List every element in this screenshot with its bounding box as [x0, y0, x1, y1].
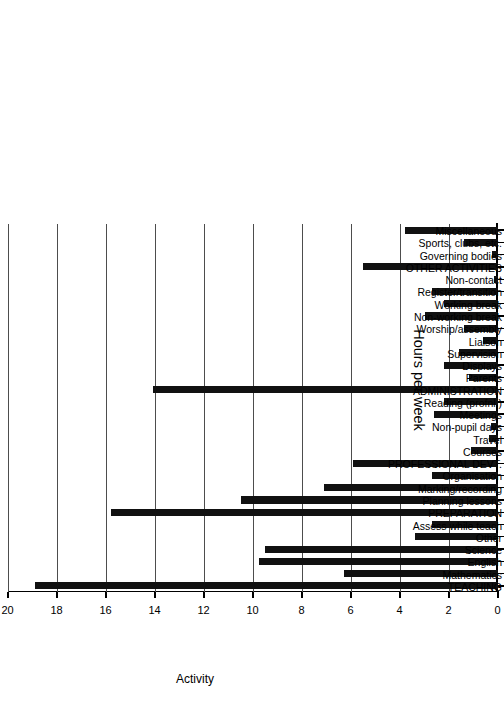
- category-label: Sports, clubs, etc.: [352, 238, 502, 249]
- value-tick-label: 8: [296, 598, 307, 624]
- gridline-14: [155, 224, 156, 592]
- category-label: Travel: [352, 435, 502, 446]
- value-tick-label: 12: [198, 598, 209, 624]
- category-label: Mathematics: [352, 570, 502, 581]
- value-tick-label-text: 20: [1, 606, 13, 617]
- gridline-8: [302, 224, 303, 592]
- category-label: Planning lessons: [352, 496, 502, 507]
- value-tick-label-text: 12: [197, 606, 209, 617]
- gridline-10: [253, 224, 254, 592]
- category-label: Miscellaneous: [352, 226, 502, 237]
- value-tick-label: 10: [247, 598, 258, 624]
- value-tick-label: 18: [51, 598, 62, 624]
- category-label: Assess while teach: [352, 521, 502, 532]
- value-tick-label-text: 0: [494, 606, 500, 617]
- value-axis-title: Hours per week: [368, 372, 470, 388]
- value-axis-title-text: Hours per week: [411, 329, 427, 431]
- gridline-12: [204, 224, 205, 592]
- category-label: Other: [352, 533, 502, 544]
- value-tick-label: 16: [100, 598, 111, 624]
- category-label: Non-working break: [352, 312, 502, 323]
- gridline-16: [106, 224, 107, 592]
- category-label: TEACHING: [352, 582, 502, 593]
- category-label: PROFESSIONAL DEVT.: [352, 459, 502, 470]
- value-tick-label: 0: [492, 598, 503, 624]
- value-tick-label-text: 16: [99, 606, 111, 617]
- category-label: Non-contact: [352, 275, 502, 286]
- gridline-18: [57, 224, 58, 592]
- value-tick-label-text: 4: [396, 606, 402, 617]
- category-label: Register/transition: [352, 287, 502, 298]
- value-tick-label-text: 2: [445, 606, 451, 617]
- value-tick-label-text: 10: [246, 606, 258, 617]
- value-tick-label-text: 6: [347, 606, 353, 617]
- category-label: English: [352, 557, 502, 568]
- value-tick-label-text: 8: [298, 606, 304, 617]
- category-label: PREPARATION: [352, 508, 502, 519]
- category-label: Science: [352, 545, 502, 556]
- value-tick-label: 4: [394, 598, 405, 624]
- category-label: Organisation: [352, 471, 502, 482]
- value-tick-label: 14: [149, 598, 160, 624]
- category-label: Marking/recording: [352, 484, 502, 495]
- rotated-figure: 02468101214161820TEACHINGMathematicsEngl…: [8, 102, 376, 592]
- value-tick-label: 20: [2, 598, 13, 624]
- category-label: Working break: [352, 300, 502, 311]
- value-tick-label: 2: [443, 598, 454, 624]
- category-label: Governing bodies: [352, 251, 502, 262]
- gridline-20: [8, 224, 9, 592]
- value-tick-label: 6: [345, 598, 356, 624]
- value-tick-label-text: 14: [148, 606, 160, 617]
- category-axis-title: Activity: [176, 672, 214, 686]
- category-axis-title-text: Activity: [176, 672, 214, 686]
- value-tick-label-text: 18: [50, 606, 62, 617]
- category-label: OTHER ACTIVITIES: [352, 263, 502, 274]
- category-label: Courses: [352, 447, 502, 458]
